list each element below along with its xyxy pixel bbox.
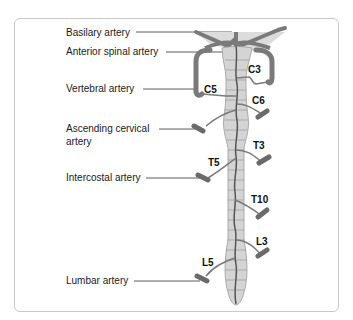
spinal-cord-illustration [0, 0, 353, 320]
label-vertebral-artery: Vertebral artery [66, 83, 134, 95]
label-ascending-cervical-artery-line1: Ascending cervical [66, 123, 149, 135]
label-lumbar-artery: Lumbar artery [66, 275, 128, 287]
segment-t10: T10 [251, 194, 268, 205]
label-intercostal-artery: Intercostal artery [66, 172, 140, 184]
segment-c3: C3 [248, 64, 261, 75]
spinal-cord [222, 46, 252, 305]
label-basilary-artery: Basilary artery [66, 27, 130, 39]
segment-l5: L5 [202, 257, 214, 268]
segment-t5: T5 [208, 157, 220, 168]
segment-c6: C6 [252, 95, 265, 106]
segment-c5: C5 [204, 84, 217, 95]
segment-t3: T3 [253, 140, 265, 151]
label-ascending-cervical-artery-line2: artery [66, 136, 92, 148]
segment-l3: L3 [256, 236, 268, 247]
label-anterior-spinal-artery: Anterior spinal artery [66, 46, 158, 58]
